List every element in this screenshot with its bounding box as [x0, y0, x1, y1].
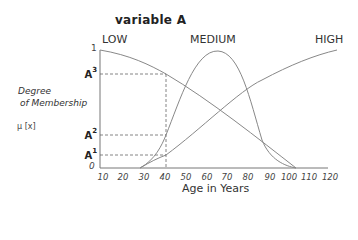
x-tick: 80 [243, 172, 254, 182]
x-tick: 60 [202, 172, 213, 182]
x-tick: 20 [118, 172, 129, 182]
x-tick: 120 [322, 172, 338, 182]
x-tick: 100 [281, 172, 297, 182]
curve-medium [140, 51, 296, 168]
curve-low [100, 50, 296, 168]
x-axis-label: Age in Years [182, 182, 249, 195]
curve-high [140, 50, 337, 168]
x-tick: 50 [181, 172, 192, 182]
x-tick: 90 [265, 172, 276, 182]
x-tick: 30 [139, 172, 150, 182]
x-tick: 10 [98, 172, 109, 182]
x-tick: 40 [160, 172, 171, 182]
x-tick: 70 [222, 172, 233, 182]
x-tick: 110 [301, 172, 317, 182]
